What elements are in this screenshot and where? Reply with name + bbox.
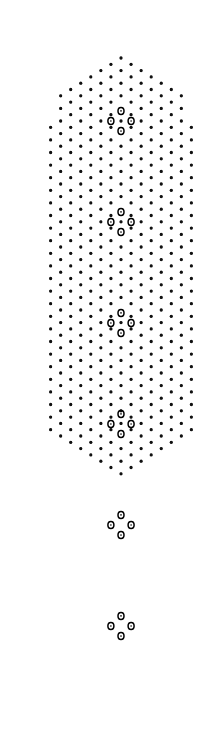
diffraction-pattern-figure: Electron diffraction dot pattern [40,16,202,750]
diffraction-pattern-canvas [40,16,202,750]
